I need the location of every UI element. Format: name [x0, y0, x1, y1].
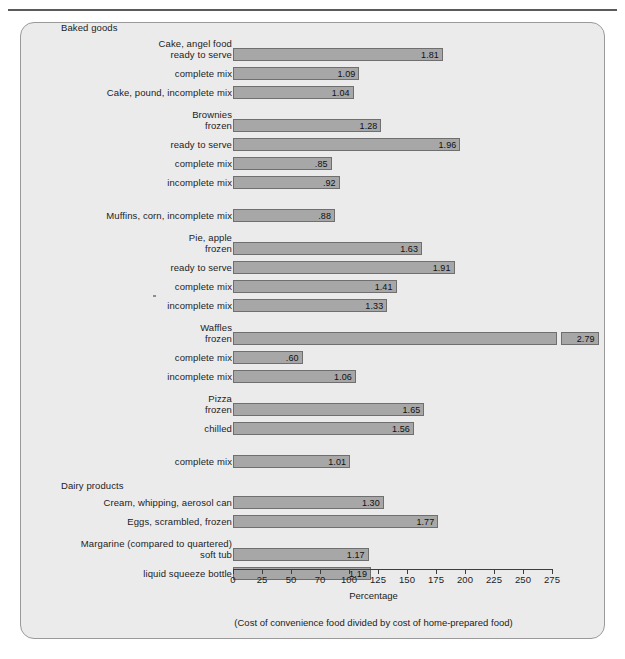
bar-row-label: Margarine (compared to quartered) — [81, 538, 232, 549]
bar-row-label: ready to serve — [170, 139, 232, 150]
bar: 1.01 — [233, 455, 350, 468]
bar-row-label: frozen — [205, 404, 232, 415]
x-axis-tick-label: 70 — [315, 574, 326, 585]
bar-value-label: 1.33 — [365, 301, 383, 310]
bar: 1.30 — [233, 496, 384, 509]
scan-speck — [153, 295, 156, 297]
x-axis-tick-label: 225 — [486, 574, 502, 585]
bar-row-label: incomplete mix — [167, 371, 232, 382]
bar-row-label: complete mix — [175, 68, 232, 79]
bar: 1.41 — [233, 280, 397, 293]
chart-page: Baked goods Dairy products Cake, angel f… — [0, 0, 625, 659]
bar: .60 — [233, 351, 303, 364]
chart-footnote: (Cost of convenience food divided by cos… — [21, 617, 606, 628]
bar-row-label: soft tub — [200, 549, 232, 560]
bar: 1.77 — [233, 515, 438, 528]
bar: 1.17 — [233, 548, 369, 561]
bar-value-label: 1.28 — [360, 121, 378, 130]
plot-area: Baked goods Dairy products Cake, angel f… — [21, 23, 606, 640]
bar-value-label: 1.63 — [400, 244, 418, 253]
bar-row-label: incomplete mix — [167, 300, 232, 311]
bar — [233, 332, 557, 345]
bar-value-label: .92 — [323, 178, 336, 187]
bar-row-label: Eggs, scrambled, frozen — [127, 516, 232, 527]
bar-row-label: Cake, pound, incomplete mix — [107, 87, 232, 98]
x-axis-tick-label: 150 — [399, 574, 415, 585]
bar: .92 — [233, 176, 340, 189]
x-axis-tick-label: 100 — [341, 574, 357, 585]
bar-row-label: Muffins, corn, incomplete mix — [106, 210, 232, 221]
bar-row-label: complete mix — [175, 456, 232, 467]
bar: 1.63 — [233, 242, 422, 255]
bar-value-label: 1.09 — [338, 69, 356, 78]
bar-row-label: Brownies — [192, 109, 232, 120]
bar: 1.09 — [233, 67, 359, 80]
group-heading-baked-goods: Baked goods — [61, 22, 118, 33]
x-axis-tick-label: 50 — [286, 574, 297, 585]
bar-row-label: complete mix — [175, 352, 232, 363]
bar-row-label: frozen — [205, 243, 232, 254]
bar: 1.28 — [233, 119, 381, 132]
x-axis-title: Percentage — [21, 590, 606, 601]
bar: 1.04 — [233, 86, 354, 99]
bar-value-label: 2.79 — [561, 332, 599, 345]
bar-row-label: Pizza — [208, 393, 232, 404]
x-axis-tick-label: 200 — [457, 574, 473, 585]
bar: 1.96 — [233, 138, 460, 151]
bar-value-label: 1.77 — [416, 517, 434, 526]
bar-row-label: incomplete mix — [167, 177, 232, 188]
bar-value-label: 1.81 — [421, 50, 439, 59]
bar-row-label: ready to serve — [170, 49, 232, 60]
bar: 1.56 — [233, 422, 414, 435]
bar-row-label: ready to serve — [170, 262, 232, 273]
group-heading-dairy-products: Dairy products — [61, 480, 124, 491]
x-axis-tick-label: 250 — [515, 574, 531, 585]
top-divider-rule — [8, 9, 617, 11]
bar-row-label: complete mix — [175, 281, 232, 292]
bar-row-label: Cake, angel food — [159, 38, 232, 49]
bar-value-label: 1.56 — [392, 424, 410, 433]
bar-value-label: .85 — [315, 159, 328, 168]
bar-value-label: 1.17 — [347, 550, 365, 559]
x-axis-tick-label: 275 — [544, 574, 560, 585]
bar-row-label: Waffles — [200, 322, 232, 333]
bar-value-label: .60 — [286, 353, 299, 362]
bar-value-label: 1.41 — [375, 282, 393, 291]
bar-row-label: chilled — [204, 423, 232, 434]
chart-panel: Baked goods Dairy products Cake, angel f… — [20, 22, 605, 639]
bar-row-label: Cream, whipping, aerosol can — [104, 497, 232, 508]
bar: 1.33 — [233, 299, 387, 312]
x-axis-tick-label: 125 — [370, 574, 386, 585]
bar: 1.65 — [233, 403, 424, 416]
bar-value-label: 1.06 — [334, 372, 352, 381]
x-axis-line — [233, 569, 552, 570]
x-axis-title-text: Percentage — [349, 590, 398, 601]
bar: 1.81 — [233, 48, 443, 61]
bar-row-label: complete mix — [175, 158, 232, 169]
x-axis-tick-label: 25 — [257, 574, 268, 585]
bar-row-label: Pie, apple — [189, 232, 232, 243]
x-axis-tick-label: 0 — [230, 574, 235, 585]
bar: 1.91 — [233, 261, 455, 274]
chart-footnote-text: (Cost of convenience food divided by cos… — [234, 617, 512, 628]
bar-value-label: 1.30 — [362, 498, 380, 507]
bar-row-label: liquid squeeze bottle — [143, 568, 232, 579]
bar: .85 — [233, 157, 332, 170]
x-axis-tick-label: 175 — [428, 574, 444, 585]
bar-value-label: 1.01 — [328, 457, 346, 466]
bar-row-label: frozen — [205, 120, 232, 131]
bar: .88 — [233, 209, 335, 222]
bar: 1.06 — [233, 370, 356, 383]
bar-value-label: 1.65 — [402, 405, 420, 414]
bar-value-label: 1.91 — [433, 263, 451, 272]
bar-value-label: 1.04 — [332, 88, 350, 97]
bar-value-label: .88 — [318, 211, 331, 220]
bar-value-label: 1.96 — [438, 140, 456, 149]
bar-row-label: frozen — [205, 333, 232, 344]
